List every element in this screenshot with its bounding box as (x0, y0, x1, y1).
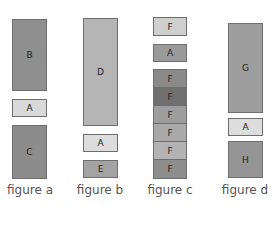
caption-figure-a: figure a (0, 183, 60, 197)
block-label: F (167, 92, 172, 102)
block-a: A (228, 118, 263, 136)
block-label: A (242, 122, 248, 132)
block-f: F (153, 105, 187, 124)
block-d: D (83, 18, 118, 126)
block-c: C (12, 125, 47, 179)
block-e: E (83, 160, 118, 178)
block-label: A (167, 48, 173, 58)
block-label: F (167, 164, 172, 174)
block-f: F (153, 69, 187, 88)
block-label: F (167, 22, 172, 32)
block-a: A (83, 134, 118, 152)
block-f: F (153, 123, 187, 142)
block-a: A (12, 99, 47, 117)
block-label: F (167, 128, 172, 138)
block-a: A (153, 44, 187, 62)
block-label: F (167, 146, 172, 156)
block-label: F (167, 110, 172, 120)
block-label: D (97, 67, 104, 77)
caption-figure-c: figure c (140, 183, 200, 197)
block-f: F (153, 17, 187, 36)
block-f: F (153, 159, 187, 179)
block-label: B (26, 50, 32, 60)
block-label: C (26, 147, 32, 157)
block-label: E (98, 164, 104, 174)
block-label: A (97, 138, 103, 148)
block-label: H (242, 155, 249, 165)
block-label: F (167, 74, 172, 84)
caption-figure-b: figure b (70, 183, 130, 197)
block-f: F (153, 87, 187, 106)
block-b: B (12, 19, 47, 91)
block-f: F (153, 141, 187, 160)
block-h: H (228, 141, 263, 178)
block-label: A (26, 103, 32, 113)
block-g: G (228, 23, 263, 113)
block-label: G (242, 63, 249, 73)
caption-figure-d: figure d (215, 183, 275, 197)
